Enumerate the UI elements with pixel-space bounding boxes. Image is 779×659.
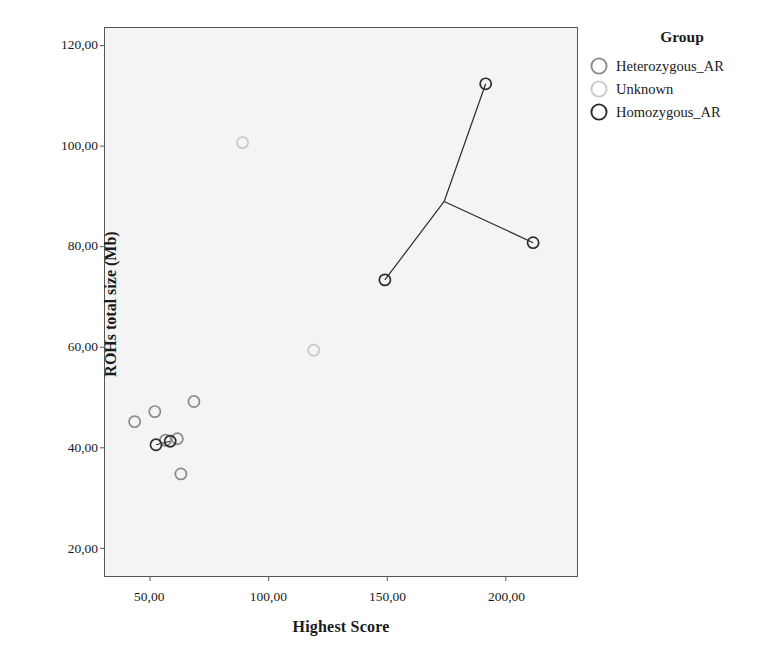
x-axis-title: Highest Score bbox=[104, 618, 578, 636]
data-point[interactable] bbox=[172, 433, 183, 444]
y-axis-tick-label: 120,00 bbox=[38, 37, 98, 53]
data-point[interactable] bbox=[129, 416, 140, 427]
legend-item-label: Unknown bbox=[616, 82, 673, 97]
y-axis-tick-label: 100,00 bbox=[38, 138, 98, 154]
x-axis-tick-label: 150,00 bbox=[347, 589, 427, 605]
x-axis-tick-label: 200,00 bbox=[467, 589, 547, 605]
x-axis-tick-label: 50,00 bbox=[109, 589, 189, 605]
legend-marker-circle-icon bbox=[588, 55, 610, 77]
data-point[interactable] bbox=[188, 396, 199, 407]
data-point[interactable] bbox=[175, 468, 186, 479]
y-axis-title: ROHs total size (Mb) bbox=[102, 67, 120, 541]
plot-area bbox=[104, 27, 578, 577]
y-axis-tick-label: 60,00 bbox=[38, 339, 98, 355]
legend-marker-circle-icon bbox=[588, 78, 610, 100]
legend-item[interactable]: Homozygous_AR bbox=[588, 101, 773, 123]
y-axis-tick-label: 20,00 bbox=[38, 541, 98, 557]
legend-item-label: Heterozygous_AR bbox=[616, 59, 724, 74]
legend-marker-circle-icon bbox=[588, 101, 610, 123]
data-point[interactable] bbox=[308, 345, 319, 356]
data-point[interactable] bbox=[237, 137, 248, 148]
legend: Group Heterozygous_ARUnknownHomozygous_A… bbox=[588, 28, 773, 124]
legend-entries: Heterozygous_ARUnknownHomozygous_AR bbox=[588, 55, 773, 123]
legend-item-label: Homozygous_AR bbox=[616, 105, 721, 120]
legend-item[interactable]: Unknown bbox=[588, 78, 773, 100]
connector-line bbox=[385, 201, 444, 279]
data-point[interactable] bbox=[149, 406, 160, 417]
connector-line bbox=[444, 84, 486, 202]
legend-item[interactable]: Heterozygous_AR bbox=[588, 55, 773, 77]
x-axis-tick-label: 100,00 bbox=[228, 589, 308, 605]
x-axis-tick-labels: 50,00100,00150,00200,00 bbox=[0, 585, 779, 605]
y-axis-tick-labels: 20,0040,0060,0080,00100,00120,00 bbox=[36, 0, 98, 659]
y-axis-tick-label: 80,00 bbox=[38, 238, 98, 254]
y-axis-tick-label: 40,00 bbox=[38, 440, 98, 456]
connector-line bbox=[444, 201, 533, 242]
plot-canvas bbox=[105, 28, 577, 576]
legend-title: Group bbox=[602, 28, 762, 46]
scatter-plot-figure: 20,0040,0060,0080,00100,00120,00 50,0010… bbox=[0, 0, 779, 659]
